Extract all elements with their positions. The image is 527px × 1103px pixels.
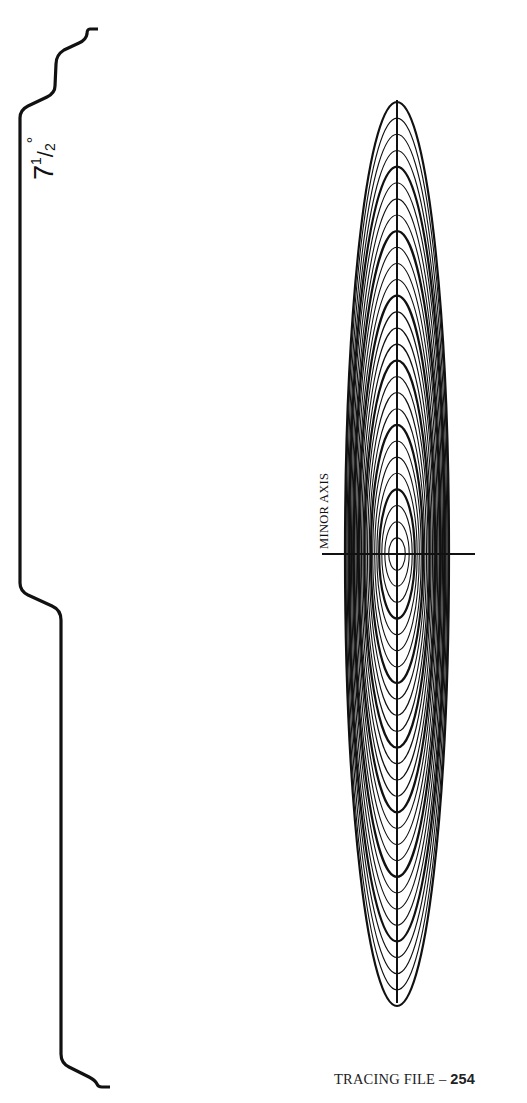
angle-whole: 7 bbox=[29, 165, 59, 180]
minor-axis-label: MINOR AXIS bbox=[318, 473, 331, 549]
angle-numerator: 1 bbox=[28, 157, 44, 165]
footer-prefix: TRACING FILE – bbox=[334, 1071, 450, 1087]
footer-caption: TRACING FILE – 254 bbox=[334, 1071, 475, 1088]
angle-bracket-line bbox=[20, 29, 110, 1087]
angle-slash: / bbox=[33, 151, 58, 157]
footer-page-number: 254 bbox=[450, 1071, 475, 1087]
ellipse-template-diagram bbox=[0, 0, 527, 1103]
degree-symbol: ° bbox=[25, 137, 42, 143]
angle-denominator: 2 bbox=[42, 143, 58, 151]
angle-label: 71/2° bbox=[26, 137, 58, 180]
